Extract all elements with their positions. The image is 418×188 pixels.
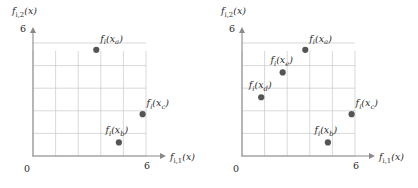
chart-panel-right: fi,2(x)606fi,1(x)fi(xa)fi(xe)fi(xd)fi(xc…: [209, 0, 418, 188]
x-tick-label-max: 6: [353, 160, 359, 171]
data-point-label: fi(xb): [313, 124, 337, 137]
data-points: fi(xa)fi(xc)fi(xb): [93, 33, 169, 146]
data-point-label: fi(xc): [146, 97, 170, 110]
origin-label: 0: [233, 163, 239, 174]
y-tick-label-max: 6: [229, 23, 235, 34]
data-point-label: fi(xa): [308, 33, 332, 46]
grid: [33, 43, 146, 156]
data-point-marker[interactable]: [93, 47, 99, 53]
data-point-marker[interactable]: [140, 111, 146, 117]
y-axis-label: fi,2(x): [11, 5, 37, 19]
data-point-label: fi(xa): [99, 33, 123, 46]
x-axis-arrowhead: [160, 153, 166, 159]
chart-panel-left-svg: fi,2(x)606fi,1(x)fi(xa)fi(xc)fi(xb): [0, 0, 209, 188]
pareto-front-figure: fi,2(x)606fi,1(x)fi(xa)fi(xc)fi(xb) fi,2…: [0, 0, 418, 188]
x-axis-label: fi,1(x): [378, 151, 404, 165]
data-point-marker[interactable]: [258, 94, 264, 100]
data-point-label: fi(xc): [355, 97, 379, 110]
grid: [242, 43, 355, 156]
y-tick-label-max: 6: [20, 23, 26, 34]
y-axis-arrowhead: [239, 27, 245, 33]
data-point-marker[interactable]: [116, 139, 122, 145]
y-axis-label: fi,2(x): [220, 5, 246, 19]
data-point-marker[interactable]: [349, 111, 355, 117]
chart-panel-left: fi,2(x)606fi,1(x)fi(xa)fi(xc)fi(xb): [0, 0, 209, 188]
data-point-marker[interactable]: [325, 139, 331, 145]
origin-label: 0: [24, 163, 30, 174]
axes: [30, 27, 166, 159]
x-axis-arrowhead: [369, 153, 375, 159]
y-axis-arrowhead: [30, 27, 36, 33]
data-point-marker[interactable]: [280, 69, 286, 75]
x-tick-label-max: 6: [144, 160, 150, 171]
chart-panel-right-svg: fi,2(x)606fi,1(x)fi(xa)fi(xe)fi(xd)fi(xc…: [209, 0, 418, 188]
axes: [239, 27, 375, 159]
data-point-marker[interactable]: [302, 47, 308, 53]
data-point-label: fi(xb): [104, 124, 128, 137]
x-axis-label: fi,1(x): [169, 151, 195, 165]
data-points: fi(xa)fi(xe)fi(xd)fi(xc)fi(xb): [248, 33, 378, 146]
data-point-label: fi(xd): [248, 79, 272, 92]
